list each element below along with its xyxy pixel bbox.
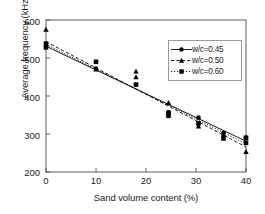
marker-wc045	[196, 115, 201, 120]
square-marker-icon	[171, 66, 192, 77]
plot-area	[0, 0, 265, 214]
marker-wc045	[221, 131, 226, 136]
circle-marker-icon	[171, 44, 192, 55]
marker-wc060	[221, 135, 226, 140]
triangle-marker-icon	[171, 55, 192, 66]
chart-figure: Average frequency (kHz) 600 500 400 300 …	[0, 0, 265, 214]
legend-label-wc045: w/c=0.45	[192, 44, 223, 55]
legend-label-wc050: w/c=0.50	[192, 55, 223, 66]
marker-wc060	[44, 45, 49, 50]
marker-wc060	[196, 121, 201, 126]
legend: w/c=0.45 w/c=0.50 w/c=0.60	[168, 40, 242, 81]
marker-wc050	[166, 100, 171, 105]
legend-item-wc060: w/c=0.60	[171, 66, 238, 77]
marker-wc050	[133, 69, 138, 74]
legend-item-wc045: w/c=0.45	[171, 44, 238, 55]
marker-wc060	[244, 140, 249, 145]
marker-wc050	[243, 149, 248, 154]
marker-wc060	[94, 60, 99, 65]
legend-item-wc050: w/c=0.50	[171, 55, 238, 66]
marker-wc050	[133, 74, 138, 79]
marker-wc060	[166, 113, 171, 118]
marker-wc060	[244, 136, 249, 141]
marker-wc050	[43, 27, 48, 32]
legend-label-wc060: w/c=0.60	[192, 66, 223, 77]
marker-wc060	[134, 82, 139, 87]
